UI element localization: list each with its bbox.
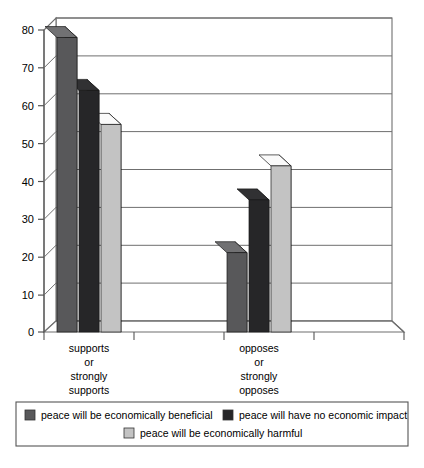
legend-swatch-no-impact <box>223 410 233 420</box>
ytick-label-50: 50 <box>22 138 34 150</box>
category-label-supports-line-2: or <box>84 356 94 368</box>
category-label-supports-line-4: supports <box>69 384 109 396</box>
ytick-label-60: 60 <box>22 100 34 112</box>
ytick-label-80: 80 <box>22 24 34 36</box>
ytick-label-40: 40 <box>22 176 34 188</box>
legend-label-beneficial: peace will be economically beneficial <box>41 409 213 421</box>
x-axis-category-labels: supports or strongly supports opposes or… <box>69 342 279 396</box>
category-label-opposes-line-2: or <box>254 356 264 368</box>
bar-front-0-1 <box>79 90 99 332</box>
bar-front-0-0 <box>57 38 77 332</box>
chart-legend: peace will be economically beneficial pe… <box>16 402 408 446</box>
x-axis-ticks <box>44 332 404 340</box>
category-label-opposes-line-1: opposes <box>239 342 279 354</box>
bar-front-1-2 <box>271 166 291 332</box>
bar-front-0-2 <box>101 124 121 332</box>
plot-area: 80 70 60 50 40 30 20 10 0 <box>22 18 404 396</box>
ytick-label-30: 30 <box>22 213 34 225</box>
category-label-opposes: opposes or strongly opposes <box>239 342 279 396</box>
chart-canvas: 80 70 60 50 40 30 20 10 0 <box>0 0 424 468</box>
legend-swatch-harmful <box>124 428 134 438</box>
category-label-supports-line-1: supports <box>69 342 109 354</box>
category-label-supports-line-3: strongly <box>71 370 109 382</box>
legend-label-no-impact: peace will have no economic impact <box>239 409 407 421</box>
ytick-label-20: 20 <box>22 251 34 263</box>
ytick-label-70: 70 <box>22 62 34 74</box>
legend-label-harmful: peace will be economically harmful <box>140 427 302 439</box>
category-label-opposes-line-3: strongly <box>241 370 279 382</box>
ytick-label-10: 10 <box>22 289 34 301</box>
y-axis-tick-labels: 80 70 60 50 40 30 20 10 0 <box>22 24 34 338</box>
bar-front-1-1 <box>249 200 269 332</box>
category-label-opposes-line-4: opposes <box>239 384 279 396</box>
bar-front-1-0 <box>227 253 247 332</box>
category-label-supports: supports or strongly supports <box>69 342 109 396</box>
y-axis-ticks <box>38 30 44 332</box>
bar-chart-figure: 80 70 60 50 40 30 20 10 0 <box>0 0 424 468</box>
ytick-label-0: 0 <box>28 326 34 338</box>
legend-swatch-beneficial <box>25 410 35 420</box>
